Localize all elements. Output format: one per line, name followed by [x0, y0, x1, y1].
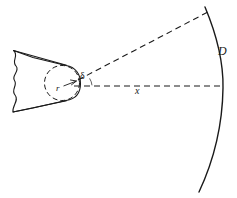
distance-label: x — [135, 86, 139, 96]
diagram-canvas: r δ x D — [0, 0, 237, 198]
divergence-angle-label: δ — [80, 71, 85, 81]
figure-svg — [0, 0, 237, 198]
spot-diameter-label: D — [218, 45, 227, 57]
radius-label: r — [56, 84, 60, 93]
divergence-angle-arc — [90, 78, 92, 85]
source-top-edge — [14, 51, 67, 66]
divergence-ray — [78, 12, 208, 80]
radius-indicator-line — [64, 81, 77, 86]
target-arc — [199, 7, 223, 192]
source-bottom-edge — [13, 101, 67, 112]
